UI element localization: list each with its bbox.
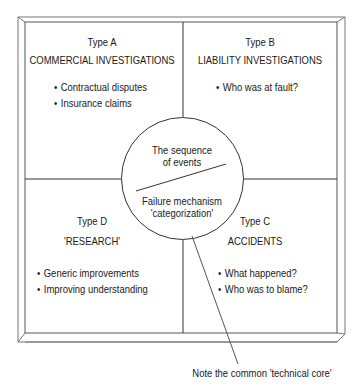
- quadrant-a-bullets: Contractual disputes Insurance claims: [54, 79, 147, 111]
- bevel-br: [337, 333, 345, 334]
- bullet-item: Who was to blame?: [218, 281, 308, 297]
- quadrant-b-title: LIABILITY INVESTIGATIONS: [183, 54, 338, 67]
- annotation-pointer: [192, 236, 238, 364]
- bullet-item: Insurance claims: [54, 95, 147, 111]
- bullet-item: Contractual disputes: [54, 79, 147, 95]
- bevel-tr: [337, 17, 345, 22]
- quadrant-d-type: Type D: [49, 215, 135, 228]
- core-lower-line2: 'categorization': [139, 207, 225, 219]
- quadrant-c-bullets: What happened? Who was to blame?: [218, 265, 308, 297]
- quadrant-b-bullets: Who was at fault?: [216, 79, 298, 95]
- core-lower-line1: Failure mechanism: [139, 195, 225, 207]
- quadrant-d-bullets: Generic improvements Improving understan…: [37, 265, 148, 297]
- quadrant-a-type: Type A: [59, 36, 145, 49]
- bullet-item: Generic improvements: [37, 265, 148, 281]
- bevel-bl: [18, 333, 25, 342]
- quadrant-c-title: ACCIDENTS: [212, 235, 298, 248]
- quadrant-a-title: COMMERCIAL INVESTIGATIONS: [25, 54, 180, 67]
- annotation-text: Note the common 'technical core': [185, 367, 340, 380]
- bevel-tl: [18, 17, 25, 22]
- bullet-item: Improving understanding: [37, 281, 148, 297]
- bullet-item: Who was at fault?: [216, 79, 298, 95]
- core-upper-line2: of events: [139, 156, 225, 168]
- quadrant-b-type: Type B: [217, 36, 303, 49]
- bullet-item: What happened?: [218, 265, 308, 281]
- core-upper-line1: The sequence: [139, 144, 225, 156]
- quadrant-d-title: 'RESEARCH': [49, 235, 135, 248]
